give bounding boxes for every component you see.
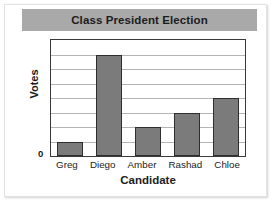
y-axis-tick-zero: 0 xyxy=(38,148,43,159)
x-axis-title: Candidate xyxy=(50,174,246,186)
x-axis-tick-label: Greg xyxy=(56,159,78,170)
x-axis-tick-label: Amber xyxy=(128,159,157,170)
bar-chart-figure: Class President Election Votes 0 GregDie… xyxy=(0,0,275,205)
x-axis-tick-label: Rashad xyxy=(168,159,202,170)
bar xyxy=(96,55,122,157)
chart-title: Class President Election xyxy=(71,14,208,26)
x-axis-tick-labels: GregDiegoAmberRashadChloe xyxy=(50,159,246,170)
bar xyxy=(174,113,200,157)
chart-title-banner: Class President Election xyxy=(22,9,257,31)
bar xyxy=(213,98,239,156)
y-axis-title: Votes xyxy=(28,49,40,119)
x-axis-tick-label: Chloe xyxy=(214,159,240,170)
x-axis-tick-label: Diego xyxy=(90,159,116,170)
bar xyxy=(57,142,83,157)
bar xyxy=(135,127,161,156)
plot-area xyxy=(50,39,246,157)
bar-group xyxy=(51,40,245,156)
